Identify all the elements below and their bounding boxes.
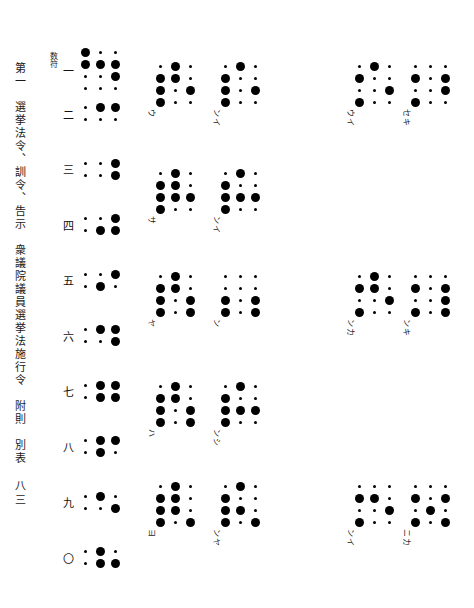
braille-row	[153, 96, 198, 108]
braille-dot-raised	[111, 504, 120, 513]
braille-dot-flat	[156, 382, 165, 391]
braille-dot-raised	[221, 74, 230, 83]
braille-row	[218, 167, 263, 179]
braille-row	[153, 416, 198, 428]
braille-dot-raised	[236, 169, 245, 178]
numeral-braille-cells	[78, 157, 123, 181]
braille-dot-flat	[251, 494, 260, 503]
page-folio: 八三	[14, 480, 25, 540]
braille-dot-raised	[251, 308, 260, 317]
braille-dot-flat	[221, 482, 230, 491]
braille-dot-flat	[96, 115, 105, 124]
braille-dot-flat	[171, 86, 180, 95]
number-sign-annotation: 数符	[48, 52, 56, 68]
braille-row	[218, 270, 263, 282]
braille-dot-raised	[251, 296, 260, 305]
braille-group: ハ	[153, 380, 198, 428]
braille-dot-raised	[171, 394, 180, 403]
braille-dot-flat	[355, 296, 364, 305]
numeral-braille-cells	[78, 379, 123, 403]
braille-dot-raised	[221, 418, 230, 427]
braille-cells	[352, 270, 397, 318]
braille-row	[153, 480, 198, 492]
braille-dot-flat	[171, 406, 180, 415]
braille-row	[218, 191, 263, 203]
braille-dot-raised	[385, 86, 394, 95]
braille-dot-flat	[385, 308, 394, 317]
braille-dot-flat	[426, 272, 435, 281]
braille-row	[352, 282, 397, 294]
braille-dot-flat	[81, 171, 90, 180]
kana-gloss: ンイ	[212, 216, 220, 234]
braille-dot-flat	[171, 296, 180, 305]
braille-dot-flat	[171, 308, 180, 317]
braille-row	[218, 480, 263, 492]
numeral-label: 四	[62, 219, 73, 230]
braille-row	[218, 282, 263, 294]
numeral-braille-cells	[78, 324, 123, 348]
braille-dot-raised	[96, 226, 105, 235]
braille-group: ンイ	[352, 480, 397, 528]
braille-dot-raised	[156, 418, 165, 427]
braille-dot-raised	[411, 308, 420, 317]
braille-dot-flat	[96, 159, 105, 168]
braille-dot-raised	[355, 494, 364, 503]
braille-dot-raised	[370, 284, 379, 293]
braille-dot-flat	[156, 169, 165, 178]
braille-row	[352, 504, 397, 516]
braille-row	[408, 84, 453, 96]
braille-dot-raised	[156, 494, 165, 503]
braille-row	[408, 492, 453, 504]
braille-dot-flat	[251, 74, 260, 83]
braille-dot-flat	[441, 98, 450, 107]
numeral-braille-cells	[78, 546, 123, 570]
kana-gloss: ンイ	[212, 109, 220, 127]
braille-dot-raised	[411, 494, 420, 503]
braille-dot-raised	[236, 482, 245, 491]
braille-dot-raised	[221, 98, 230, 107]
braille-dot-raised	[96, 492, 105, 501]
braille-cells	[408, 480, 453, 528]
braille-dot-flat	[81, 115, 90, 124]
braille-dot-raised	[156, 296, 165, 305]
braille-row	[408, 480, 453, 492]
braille-dot-raised	[156, 518, 165, 527]
braille-dot-raised	[221, 518, 230, 527]
braille-dot-flat	[221, 62, 230, 71]
braille-row	[78, 280, 123, 292]
braille-dot-raised	[411, 98, 420, 107]
braille-dot-raised	[156, 181, 165, 190]
braille-dot-flat	[111, 547, 120, 556]
braille-dot-raised	[441, 518, 450, 527]
braille-row	[408, 306, 453, 318]
braille-dot-raised	[156, 308, 165, 317]
braille-dot-flat	[236, 272, 245, 281]
braille-dot-raised	[186, 296, 195, 305]
numeral-braille-cells	[78, 46, 123, 94]
braille-dot-flat	[221, 272, 230, 281]
braille-dot-raised	[186, 86, 195, 95]
braille-dot-flat	[426, 494, 435, 503]
braille-dot-flat	[251, 506, 260, 515]
braille-dot-flat	[385, 62, 394, 71]
numeral-label: 一	[62, 65, 73, 76]
braille-row	[352, 294, 397, 306]
braille-dot-flat	[81, 103, 90, 112]
braille-dot-flat	[236, 205, 245, 214]
numeral-label: 六	[62, 330, 73, 341]
braille-dot-raised	[111, 559, 120, 568]
braille-dot-raised	[171, 272, 180, 281]
braille-dot-flat	[96, 337, 105, 346]
braille-dot-raised	[186, 406, 195, 415]
braille-dot-raised	[370, 494, 379, 503]
braille-dot-flat	[96, 504, 105, 513]
kana-gloss: ンイ	[346, 529, 354, 547]
braille-row	[408, 294, 453, 306]
braille-row	[352, 72, 397, 84]
braille-dot-flat	[251, 98, 260, 107]
braille-dot-raised	[186, 308, 195, 317]
braille-group: ウ	[153, 60, 198, 108]
braille-dot-flat	[186, 284, 195, 293]
braille-cells	[218, 380, 263, 428]
braille-dot-raised	[171, 74, 180, 83]
